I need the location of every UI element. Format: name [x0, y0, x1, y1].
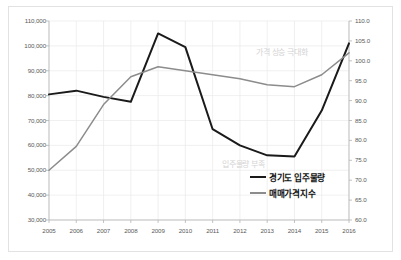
- legend-line-icon-price-index: [250, 192, 266, 194]
- y-axis-right-tick-80: 80.0: [355, 136, 389, 143]
- y-axis-right-tick-95: 95.0: [355, 77, 389, 84]
- y-axis-right-tick-65: 65.0: [355, 196, 389, 203]
- x-axis-tick-2010: 2010: [172, 227, 198, 234]
- annotation-supply-shortage: 입주물량 부족: [222, 158, 265, 169]
- x-axis-tick-2006: 2006: [63, 227, 89, 234]
- y-axis-right-tick-105: 105.0: [355, 37, 389, 44]
- y-axis-left-tick-30000: 30,000: [8, 216, 46, 223]
- y-axis-right-tick-110: 110.0: [355, 17, 389, 24]
- y-axis-right-tick-100: 100.0: [355, 57, 389, 64]
- x-axis-tick-2016: 2016: [336, 227, 362, 234]
- x-axis-tick-2011: 2011: [200, 227, 226, 234]
- x-axis-tick-2014: 2014: [281, 227, 307, 234]
- legend-item-supply: 경기도 입주물량: [250, 171, 325, 183]
- y-axis-left-tick-50000: 50,000: [8, 166, 46, 173]
- y-axis-left-tick-70000: 70,000: [8, 117, 46, 124]
- y-axis-right-tick-70: 70.0: [355, 176, 389, 183]
- x-axis-tick-2009: 2009: [145, 227, 171, 234]
- x-axis-tick-2007: 2007: [91, 227, 117, 234]
- y-axis-left-tick-60000: 60,000: [8, 141, 46, 148]
- y-axis-right-tick-85: 85.0: [355, 117, 389, 124]
- y-axis-right-tick-90: 90.0: [355, 97, 389, 104]
- y-axis-right-tick-60: 60.0: [355, 216, 389, 223]
- legend-label-supply: 경기도 입주물량: [269, 171, 325, 183]
- x-axis-tick-2013: 2013: [254, 227, 280, 234]
- y-axis-left-tick-110000: 110,000: [8, 17, 46, 24]
- x-axis-tick-2005: 2005: [36, 227, 62, 234]
- legend-line-icon-supply: [250, 176, 266, 178]
- annotation-price-peak: 가격 상승 극대화: [256, 46, 308, 57]
- x-axis-tick-2015: 2015: [309, 227, 335, 234]
- y-axis-left-tick-40000: 40,000: [8, 191, 46, 198]
- chart-container: 30,00040,00050,00060,00070,00080,00090,0…: [0, 0, 401, 260]
- legend-item-price-index: 매매가격지수: [250, 187, 325, 199]
- y-axis-left-tick-100000: 100,000: [8, 42, 46, 49]
- y-axis-left-tick-90000: 90,000: [8, 67, 46, 74]
- legend-label-price-index: 매매가격지수: [269, 187, 315, 199]
- chart-legend: 경기도 입주물량 매매가격지수: [250, 171, 325, 199]
- y-axis-left-tick-80000: 80,000: [8, 92, 46, 99]
- x-axis-tick-2012: 2012: [227, 227, 253, 234]
- y-axis-right-tick-75: 75.0: [355, 156, 389, 163]
- chart-plot-area: [0, 0, 401, 260]
- x-axis-tick-2008: 2008: [118, 227, 144, 234]
